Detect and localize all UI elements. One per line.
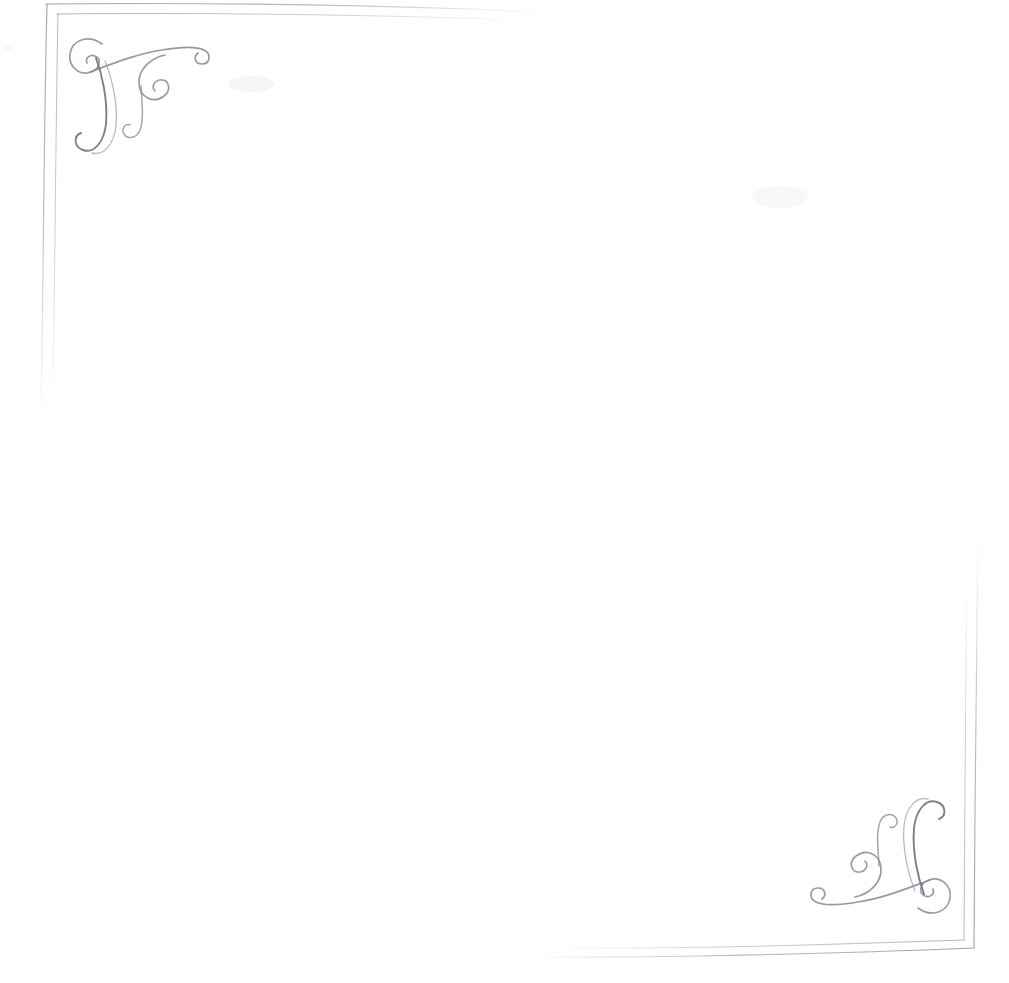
- ornamental-border-artwork: [0, 0, 1009, 983]
- paper-background: [0, 0, 1009, 983]
- paper-smudge-upper-right: [752, 186, 808, 208]
- paper-speck-far-left: [6, 46, 9, 49]
- paper-smudge-upper-left: [228, 76, 274, 92]
- document-page: Decorative Border Stationery Scan: [0, 0, 1009, 983]
